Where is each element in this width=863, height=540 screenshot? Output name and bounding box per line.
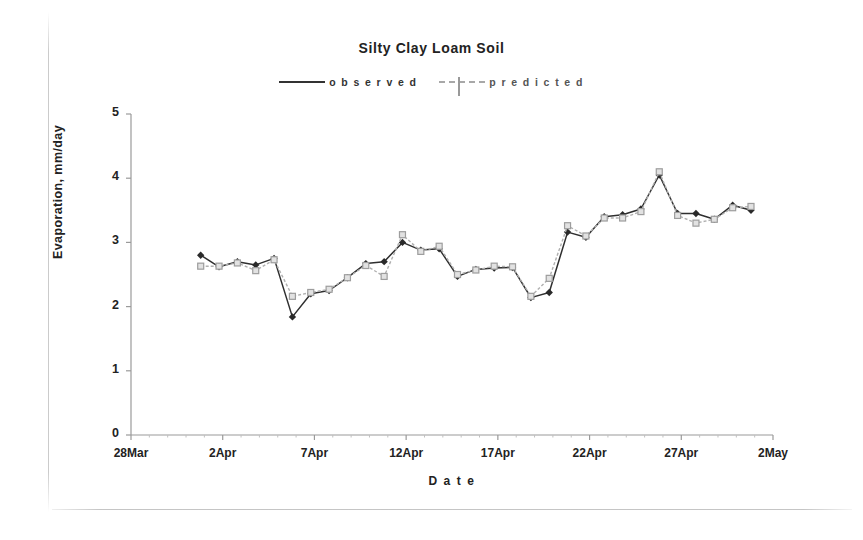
data-point-predicted: [638, 209, 644, 215]
data-point-predicted: [344, 275, 350, 281]
data-point-predicted: [308, 289, 314, 295]
data-point-predicted: [253, 268, 259, 274]
chart-canvas: [0, 0, 863, 540]
plot-area: Evaporation, mm/day D a t e 01234528Mar2…: [0, 0, 863, 540]
data-point-predicted: [711, 216, 717, 222]
data-point-predicted: [363, 263, 369, 269]
data-point-predicted: [730, 205, 736, 211]
chart-page: Silty Clay Loam Soil o b s e r v e d p r…: [0, 0, 863, 540]
data-point-predicted: [656, 169, 662, 175]
data-point-predicted: [601, 215, 607, 221]
data-point-predicted: [289, 293, 295, 299]
data-point-predicted: [234, 260, 240, 266]
data-point-predicted: [748, 203, 754, 209]
data-point-predicted: [565, 223, 571, 229]
data-point-observed: [546, 289, 553, 296]
data-point-predicted: [436, 243, 442, 249]
data-point-predicted: [271, 257, 277, 263]
data-point-observed: [197, 252, 204, 259]
data-point-predicted: [693, 220, 699, 226]
data-point-predicted: [675, 212, 681, 218]
data-point-predicted: [546, 275, 552, 281]
data-point-predicted: [528, 293, 534, 299]
data-point-predicted: [510, 264, 516, 270]
data-point-observed: [692, 210, 699, 217]
data-point-predicted: [326, 286, 332, 292]
series-line-observed: [201, 175, 751, 317]
data-point-predicted: [198, 263, 204, 269]
series-line-predicted: [201, 172, 751, 296]
data-point-predicted: [455, 272, 461, 278]
data-point-predicted: [418, 248, 424, 254]
data-point-predicted: [216, 263, 222, 269]
data-point-predicted: [473, 267, 479, 273]
data-point-predicted: [620, 215, 626, 221]
data-point-predicted: [399, 232, 405, 238]
data-point-predicted: [491, 263, 497, 269]
data-point-predicted: [381, 273, 387, 279]
data-point-predicted: [583, 233, 589, 239]
